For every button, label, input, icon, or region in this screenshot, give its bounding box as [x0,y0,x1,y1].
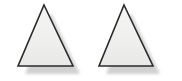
triangle-left [18,5,73,66]
triangle-right [99,5,153,66]
figure-canvas: Two identical shaded triangles side by s… [0,0,182,81]
triangle-left-group [18,5,80,74]
triangle-right-group [99,5,160,74]
two-triangles-illustration [0,0,182,81]
